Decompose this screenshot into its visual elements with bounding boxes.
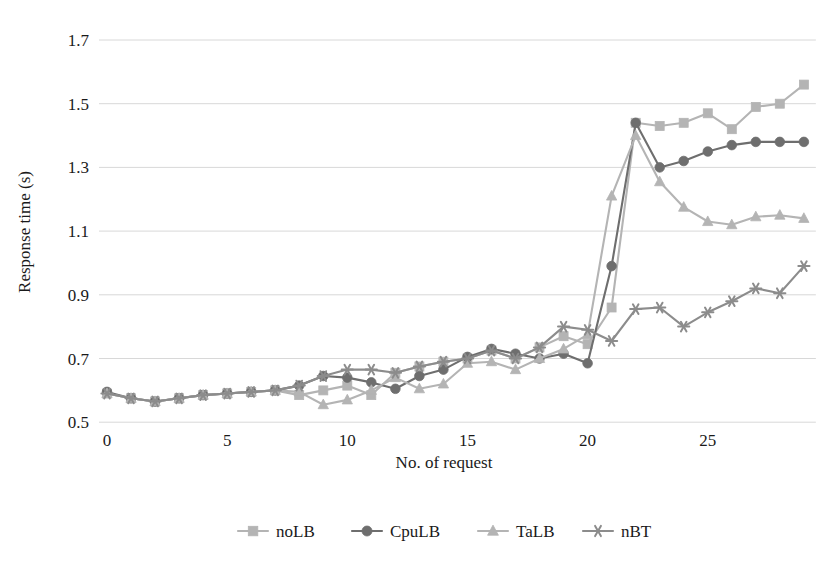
square-marker [703, 109, 712, 118]
series-markers-nolb [103, 80, 809, 406]
square-marker [559, 332, 568, 341]
legend-label-cpulb: CpuLB [390, 522, 440, 541]
response-time-line-chart: 1.71.51.31.10.90.70.5 0510152025 Respons… [0, 0, 819, 561]
y-tick-label: 1.7 [68, 31, 90, 50]
series-line-nolb [107, 85, 804, 402]
x-tick-label: 0 [103, 431, 112, 450]
triangle-marker [655, 176, 665, 186]
circle-marker [775, 137, 785, 147]
y-tick-label: 0.5 [68, 413, 89, 432]
circle-marker [362, 526, 372, 536]
x-tick-label: 20 [579, 431, 596, 450]
circle-marker [631, 118, 641, 128]
x-tick-label: 5 [223, 431, 232, 450]
square-marker [655, 122, 664, 131]
gridlines-group [99, 40, 816, 422]
square-marker [799, 80, 808, 89]
y-tick-label: 1.1 [68, 222, 89, 241]
series-nbt [101, 261, 809, 406]
circle-marker [727, 140, 737, 150]
circle-marker [679, 156, 689, 166]
circle-marker [799, 137, 809, 147]
square-marker [319, 386, 328, 395]
y-tick-label: 0.7 [68, 350, 90, 369]
square-marker [727, 125, 736, 134]
circle-marker [415, 371, 425, 381]
series-talb [102, 130, 809, 409]
asterisk-marker [592, 526, 604, 536]
series-cpulb [102, 118, 809, 406]
series-markers-talb [102, 130, 809, 409]
circle-marker [703, 147, 713, 157]
square-marker [775, 99, 784, 108]
legend-item-talb[interactable]: TaLB [478, 522, 554, 541]
legend-item-nolb[interactable]: noLB [238, 522, 315, 541]
x-axis-tick-labels: 0510152025 [103, 431, 717, 450]
asterisk-marker [630, 304, 641, 314]
x-tick-label: 25 [699, 431, 716, 450]
square-marker [751, 102, 760, 111]
square-marker [679, 118, 688, 127]
x-tick-label: 15 [459, 431, 476, 450]
series-markers-nbt [101, 261, 809, 406]
asterisk-marker [750, 284, 761, 294]
y-tick-label: 1.5 [68, 95, 89, 114]
asterisk-marker [366, 365, 377, 375]
x-tick-label: 10 [339, 431, 356, 450]
legend-label-talb: TaLB [516, 522, 554, 541]
square-marker [248, 526, 257, 536]
legend-item-cpulb[interactable]: CpuLB [352, 522, 440, 541]
triangle-marker [606, 190, 616, 200]
y-tick-label: 1.3 [68, 158, 89, 177]
legend-label-nbt: nBT [621, 522, 652, 541]
chart-legend: noLBCpuLBTaLBnBT [238, 522, 652, 541]
chart-figure: 1.71.51.31.10.90.70.5 0510152025 Respons… [0, 0, 819, 561]
series-line-nbt [107, 266, 804, 401]
x-axis-title: No. of request [396, 453, 493, 472]
legend-item-nbt[interactable]: nBT [583, 522, 652, 541]
y-axis-title: Response time (s) [15, 171, 34, 293]
data-series-group [101, 80, 809, 409]
circle-marker [391, 384, 401, 394]
triangle-marker [703, 216, 713, 226]
circle-marker [607, 261, 617, 271]
y-axis-tick-labels: 1.71.51.31.10.90.70.5 [68, 31, 90, 432]
legend-label-nolb: noLB [276, 522, 315, 541]
square-marker [607, 303, 616, 312]
circle-marker [751, 137, 761, 147]
y-tick-label: 0.9 [68, 286, 89, 305]
asterisk-marker [726, 296, 737, 306]
triangle-marker [558, 343, 568, 353]
circle-marker [655, 163, 665, 173]
circle-marker [583, 359, 593, 369]
asterisk-marker [606, 336, 617, 346]
series-nolb [103, 80, 809, 406]
